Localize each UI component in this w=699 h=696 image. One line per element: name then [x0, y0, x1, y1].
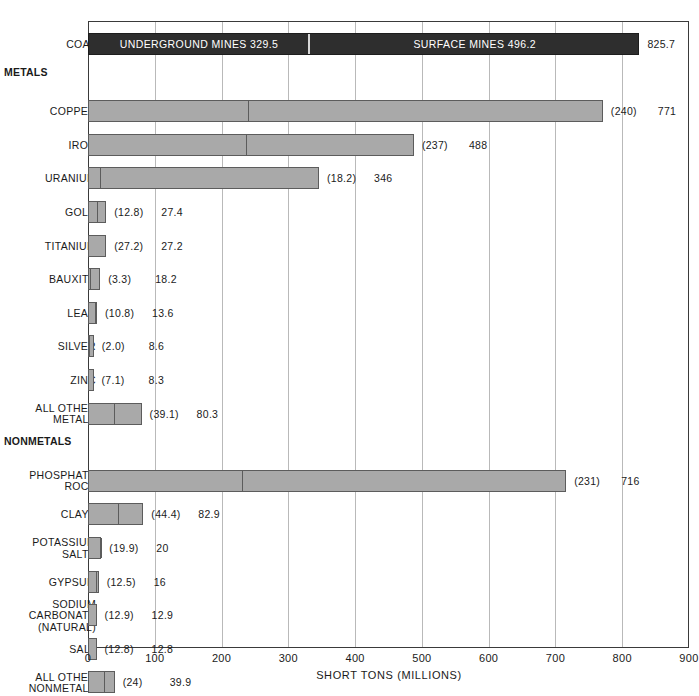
segment-divider [97, 202, 98, 222]
bar-clays [88, 503, 143, 525]
bar-row: PHOSPHATE ROCK(231)716 [0, 465, 699, 499]
total-value: 16 [154, 576, 166, 588]
total-value: 8.3 [149, 374, 165, 386]
bar-row: GOLD(12.8)27.4 [0, 196, 699, 230]
category-label: COPPER [0, 106, 96, 118]
category-label: CLAYS [0, 509, 96, 521]
bar-coal: UNDERGROUND MINES 329.5SURFACE MINES 496… [88, 33, 639, 55]
section-heading-row: METALS [0, 62, 699, 96]
category-label: ALL OTHER METALS [0, 403, 96, 426]
x-tick-200: 200 [212, 652, 231, 664]
segment-divider [89, 336, 90, 356]
bar-row: COALUNDERGROUND MINES 329.5SURFACE MINES… [0, 28, 699, 62]
bar-value-annotation: (2.0)8.6 [102, 335, 165, 357]
segment-divider [246, 135, 247, 155]
x-tick-100: 100 [145, 652, 164, 664]
bar-row: BAUXITE(3.3)18.2 [0, 263, 699, 297]
x-tick-800: 800 [613, 652, 632, 664]
total-value: 80.3 [197, 408, 219, 420]
segment-divider [93, 370, 94, 390]
bar-lead [88, 302, 97, 324]
bar-row: SODIUM CARBONATE (NATURAL)(12.9)12.9 [0, 599, 699, 633]
bar-value-annotation: (18.2)346 [327, 167, 392, 189]
x-tick-0: 0 [85, 652, 91, 664]
bar-value-annotation: (12.9)12.9 [105, 604, 174, 626]
underground-value: (2.0) [102, 340, 142, 352]
total-value: 488 [469, 139, 487, 151]
bar-value-annotation: (3.3)18.2 [108, 268, 177, 290]
category-label: BAUXITE [0, 274, 96, 286]
segment-divider [242, 471, 243, 491]
category-label: GOLD [0, 207, 96, 219]
category-label: COAL [0, 39, 96, 51]
x-tick-900: 900 [679, 652, 698, 664]
category-label: PHOSPHATE ROCK [0, 470, 96, 493]
x-tick-600: 600 [479, 652, 498, 664]
total-value: 825.7 [647, 38, 675, 50]
total-value: 716 [621, 475, 639, 487]
bar-uranium [88, 167, 319, 189]
bar-row: SILVER(2.0)8.6 [0, 330, 699, 364]
segment-divider [118, 504, 119, 524]
category-label: SODIUM CARBONATE (NATURAL) [0, 599, 96, 634]
bar-value-annotation: (44.4)82.9 [151, 503, 220, 525]
x-tick-400: 400 [345, 652, 364, 664]
total-value: 39.9 [170, 676, 192, 688]
bar-value-annotation: (27.2)27.2 [114, 235, 183, 257]
segment-divider [114, 404, 115, 424]
underground-value: (12.8) [114, 206, 154, 218]
x-tick-500: 500 [412, 652, 431, 664]
bar-value-annotation: (10.8)13.6 [105, 302, 174, 324]
bar-row: LEAD(10.8)13.6 [0, 297, 699, 331]
underground-value: (7.1) [102, 374, 142, 386]
total-value: 27.4 [161, 206, 183, 218]
section-label-nonmetals: NONMETALS [4, 436, 204, 448]
segment-divider [100, 168, 101, 188]
section-heading-row: NONMETALS [0, 431, 699, 465]
bar-value-annotation: (231)716 [574, 470, 639, 492]
underground-value: (10.8) [105, 307, 145, 319]
total-value: 13.6 [152, 307, 174, 319]
category-label: GYPSUM [0, 577, 96, 589]
category-label: POTASSIUM SALTS [0, 537, 96, 560]
bar-row: TITANIUM(27.2)27.2 [0, 230, 699, 264]
category-label: SILVER [0, 341, 96, 353]
bar-row: COPPER(240)771 [0, 95, 699, 129]
category-label: URANIUM [0, 173, 96, 185]
segment-divider [96, 572, 97, 592]
total-value: 82.9 [198, 508, 220, 520]
bar-row: ZINC(7.1)8.3 [0, 364, 699, 398]
bar-gypsum [88, 571, 99, 593]
total-value: 346 [374, 172, 392, 184]
bar-row: GYPSUM(12.5)16 [0, 566, 699, 600]
category-label: ALL OTHER NONMETALS [0, 672, 96, 695]
bar-bauxite [88, 268, 100, 290]
category-label: TITANIUM [0, 241, 96, 253]
bar-value-annotation: (12.5)16 [107, 571, 166, 593]
segment-divider [101, 538, 102, 558]
category-label: LEAD [0, 308, 96, 320]
underground-value: (27.2) [114, 240, 154, 252]
bar-value-annotation: (24)39.9 [123, 671, 192, 693]
bar-gold [88, 201, 106, 223]
segment-divider [95, 303, 96, 323]
bar-zinc [88, 369, 94, 391]
underground-value: (19.9) [109, 542, 149, 554]
total-value: 8.6 [149, 340, 165, 352]
bar-value-annotation: (12.8)27.4 [114, 201, 183, 223]
underground-value: (24) [123, 676, 163, 688]
underground-value: (231) [574, 475, 614, 487]
total-value: 18.2 [155, 273, 177, 285]
underground-value: (12.9) [105, 609, 145, 621]
bar-sodium-carbonate-natural [88, 604, 97, 626]
bar-copper [88, 100, 603, 122]
bar-value-annotation: (19.9)20 [109, 537, 168, 559]
bar-titanium [88, 235, 106, 257]
bar-row: CLAYS(44.4)82.9 [0, 498, 699, 532]
total-value: 20 [156, 542, 168, 554]
section-label-metals: METALS [4, 67, 204, 79]
bar-row: ALL OTHER METALS(39.1)80.3 [0, 398, 699, 432]
bar-potassium-salts [88, 537, 101, 559]
segment-divider [248, 101, 249, 121]
bar-phosphate-rock [88, 470, 566, 492]
